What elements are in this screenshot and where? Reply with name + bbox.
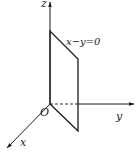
- x-axis-label: x: [20, 136, 27, 149]
- origin-label: O: [40, 106, 49, 119]
- z-axis-label: z: [40, 0, 47, 10]
- plane-equation-label: x−y=0: [66, 36, 101, 47]
- diagram-canvas: z y x O x−y=0: [0, 0, 137, 154]
- y-axis-label: y: [115, 110, 123, 123]
